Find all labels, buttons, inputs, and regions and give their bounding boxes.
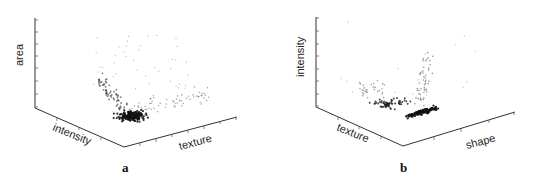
ylabel-shape: shape: [464, 132, 496, 151]
scatter-points-b: [341, 22, 476, 120]
scatter-points-a: [93, 35, 209, 123]
figure-canvas: area intensity texture a intensity textu…: [0, 0, 538, 184]
zlabel-intensity: intensity: [294, 36, 306, 77]
panel-label-b: b: [400, 160, 407, 175]
zlabel-area: area: [13, 43, 25, 66]
xlabel-texture: texture: [335, 121, 371, 145]
ylabel-texture: texture: [177, 132, 213, 152]
y-axis-shape: [403, 112, 515, 146]
panel-label-a: a: [122, 160, 129, 175]
panel-b: intensity texture shape b: [294, 17, 515, 175]
panel-a: area intensity texture a: [13, 18, 237, 175]
